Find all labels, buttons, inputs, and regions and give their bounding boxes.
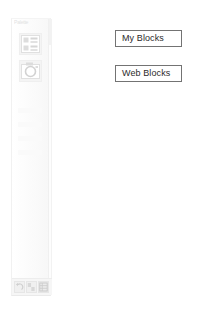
palette-scrollbar[interactable] (48, 19, 52, 294)
palette-ghost-row (18, 150, 42, 155)
layout-list-icon (20, 34, 41, 54)
palette-ghost-row (18, 122, 42, 127)
palette-scrollbar-thumb[interactable] (49, 19, 51, 45)
palette-tile-layout-list[interactable] (19, 33, 42, 55)
footer-button-grid[interactable] (38, 281, 49, 293)
checker-icon (27, 282, 36, 292)
camera-circle-icon (20, 61, 41, 81)
grid-icon (39, 282, 48, 292)
footer-button-undo[interactable] (14, 281, 25, 293)
web-blocks-button[interactable]: Web Blocks (115, 65, 182, 82)
palette-ghost-row (18, 136, 42, 141)
footer-button-checker[interactable] (26, 281, 37, 293)
palette-tile-camera-circle[interactable] (19, 60, 42, 82)
palette-header-label: Palette (14, 19, 40, 26)
my-blocks-button[interactable]: My Blocks (115, 30, 182, 47)
palette-ghost-row (18, 108, 42, 113)
undo-icon (15, 282, 24, 292)
palette-footer-toolbar (12, 278, 52, 295)
